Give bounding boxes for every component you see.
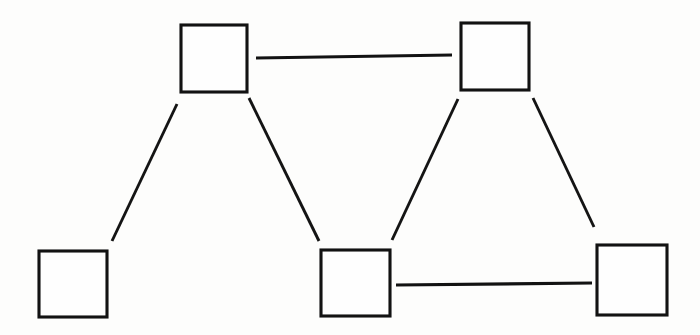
top-right-node[interactable] <box>461 23 529 90</box>
bottom-left-node[interactable] <box>39 251 107 317</box>
top-left-node[interactable] <box>181 25 247 92</box>
bottom-middle-node[interactable] <box>321 250 390 316</box>
edge-top-left-to-top-right[interactable] <box>256 55 452 58</box>
edge-top-left-to-bottom-middle[interactable] <box>249 98 319 241</box>
edge-top-left-to-bottom-left[interactable] <box>112 104 177 241</box>
diagram-canvas <box>0 0 700 335</box>
nodes-layer <box>39 23 667 317</box>
bottom-right-node[interactable] <box>597 245 667 315</box>
edge-top-right-to-bottom-right[interactable] <box>533 98 594 227</box>
edge-top-right-to-bottom-middle[interactable] <box>392 99 458 240</box>
node-link-diagram <box>0 0 700 335</box>
edge-bottom-middle-to-bottom-right[interactable] <box>396 283 592 285</box>
